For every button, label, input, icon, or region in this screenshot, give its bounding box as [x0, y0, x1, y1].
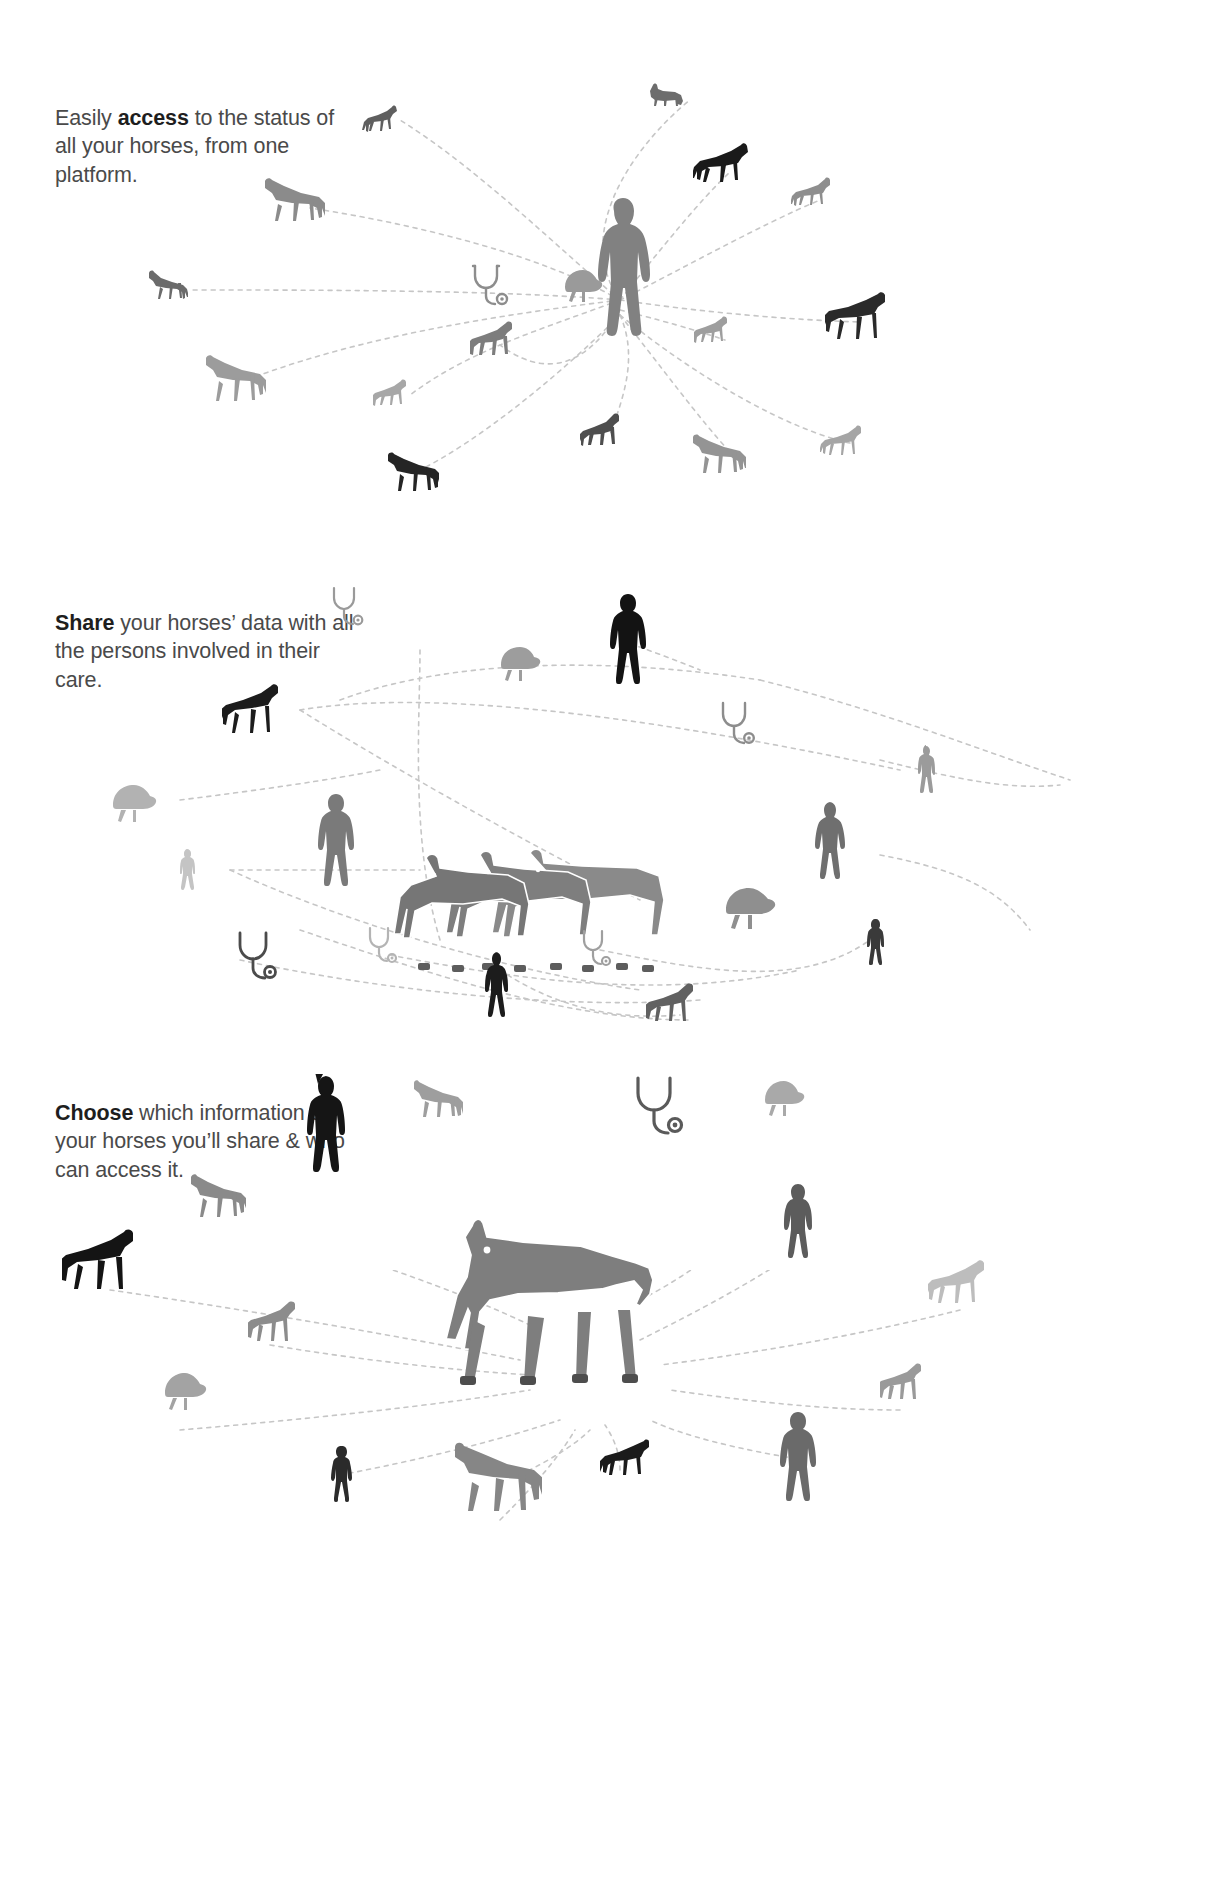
riding-helmet-icon: [722, 885, 776, 931]
riding-helmet-icon: [762, 1078, 806, 1116]
stethoscope-icon: [628, 1074, 686, 1138]
horse-icon: [413, 1078, 463, 1118]
foal-icon: [373, 378, 407, 406]
horse-icon: [928, 1258, 984, 1304]
riding-helmet-icon: [498, 644, 542, 682]
foal-icon: [362, 104, 398, 134]
caption-choose-bold: Choose: [55, 1101, 133, 1125]
horse-icon: [692, 432, 746, 474]
foal-icon: [878, 1352, 879, 1353]
foal-icon: [470, 320, 514, 356]
foal-icon: [646, 982, 694, 1022]
person-icon: [315, 792, 357, 892]
stethoscope-icon: [467, 262, 511, 306]
person-icon: [330, 1444, 354, 1504]
horse-icon: [190, 1172, 246, 1218]
horse-icon: [148, 268, 188, 300]
foal-icon: [880, 1362, 922, 1400]
horse-icon: [648, 80, 684, 108]
foal-icon: [248, 1300, 296, 1342]
horse-icon: [62, 1228, 136, 1290]
horse-icon: [452, 1440, 542, 1512]
person-icon: [778, 1410, 818, 1506]
scene-access: [0, 0, 1232, 640]
horse-icon: [693, 142, 749, 184]
person-icon: [178, 848, 196, 892]
person-icon: [303, 1074, 347, 1176]
person-icon: [915, 745, 937, 797]
horse-icon: [791, 176, 831, 206]
stethoscope-icon: [364, 925, 398, 965]
riding-helmet-icon: [110, 782, 158, 824]
horse-icon: [387, 450, 439, 492]
person-icon: [866, 918, 886, 968]
horse-icon: [820, 424, 862, 456]
stethoscope-icon: [232, 930, 278, 982]
panel-choose: Choose which information of your horses …: [0, 1270, 1232, 1888]
horse-icon: [825, 290, 887, 340]
foal-icon: [694, 315, 728, 343]
person-icon: [782, 1182, 814, 1260]
stethoscope-icon: [328, 585, 364, 627]
foal-icon: [580, 412, 620, 446]
person-icon: [481, 950, 509, 1020]
foal-icon: [222, 682, 280, 734]
riding-helmet-icon: [162, 1370, 208, 1412]
stethoscope-icon: [716, 700, 756, 746]
stethoscope-icon: [578, 928, 612, 968]
riding-helmet-icon: [563, 267, 603, 303]
horse-icon: [204, 352, 266, 402]
horse-group-icon: [390, 845, 665, 975]
horse-icon: [600, 1438, 650, 1476]
horse-icon: [440, 1208, 656, 1393]
horse-icon: [263, 176, 325, 222]
caption-share-bold: Share: [55, 611, 114, 635]
panel-access: Easily access to the status of all your …: [0, 0, 1232, 640]
person-icon: [608, 592, 648, 690]
person-icon: [812, 800, 846, 884]
scene-choose: [0, 1270, 1232, 1888]
